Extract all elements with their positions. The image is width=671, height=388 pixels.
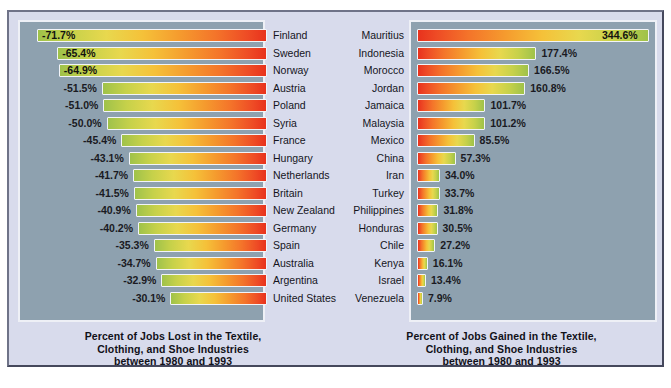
bar-row: -65.4%Sweden bbox=[9, 45, 337, 63]
bar bbox=[102, 82, 267, 95]
bar-row: 16.1%Kenya bbox=[337, 255, 666, 273]
bar-row: -45.4%France bbox=[9, 132, 337, 150]
bar-value-label: 177.4% bbox=[541, 45, 577, 63]
bar bbox=[417, 169, 440, 182]
figure-frame: -71.7%Finland-65.4%Sweden-64.9%Norway-51… bbox=[7, 10, 664, 367]
bar bbox=[417, 47, 536, 60]
country-label: Jamaica bbox=[337, 97, 404, 115]
bar-value-label: 34.0% bbox=[445, 167, 475, 185]
country-label: Syria bbox=[273, 115, 297, 133]
bar-value-label: -51.5% bbox=[40, 80, 97, 98]
bar-value-label: -35.3% bbox=[92, 237, 149, 255]
bar-row: -43.1%Hungary bbox=[9, 150, 337, 168]
bar-row: 27.2%Chile bbox=[337, 237, 666, 255]
bar bbox=[417, 204, 438, 217]
bar-row: 177.4%Indonesia bbox=[337, 45, 666, 63]
country-label: New Zealand bbox=[273, 202, 335, 220]
chart-panel-jobs-lost: -71.7%Finland-65.4%Sweden-64.9%Norway-51… bbox=[9, 12, 337, 365]
caption-line: Clothing, and Shoe Industries bbox=[337, 343, 666, 356]
country-label: Venezuela bbox=[337, 290, 404, 308]
country-label: Malaysia bbox=[337, 115, 404, 133]
bar-row: -71.7%Finland bbox=[9, 27, 337, 45]
bar-row: 85.5%Mexico bbox=[337, 132, 666, 150]
bar-row: -50.0%Syria bbox=[9, 115, 337, 133]
bar-value-label: 30.5% bbox=[443, 220, 473, 238]
bar bbox=[417, 239, 435, 252]
country-label: Poland bbox=[273, 97, 306, 115]
bar-row: 101.7%Jamaica bbox=[337, 97, 666, 115]
country-label: Chile bbox=[337, 237, 404, 255]
country-label: Austria bbox=[273, 80, 306, 98]
bar-rows-jobs-gained: 344.6%Mauritius177.4%Indonesia166.5%Moro… bbox=[337, 12, 666, 365]
bar bbox=[136, 204, 267, 217]
bar-value-label: -41.7% bbox=[71, 167, 128, 185]
bar-value-label: -43.1% bbox=[67, 150, 124, 168]
country-label: Iran bbox=[337, 167, 404, 185]
caption-jobs-lost: Percent of Jobs Lost in the Textile,Clot… bbox=[9, 330, 337, 368]
bar-row: -32.9%Argentina bbox=[9, 272, 337, 290]
bar-row: 160.8%Jordan bbox=[337, 80, 666, 98]
bar-value-label: -41.5% bbox=[72, 185, 129, 203]
bar-value-label: 16.1% bbox=[433, 255, 463, 273]
bar-value-label: 101.2% bbox=[490, 115, 526, 133]
bar-value-label: -51.0% bbox=[41, 97, 98, 115]
bar-value-label: -50.0% bbox=[45, 115, 102, 133]
bar bbox=[133, 169, 267, 182]
bar-value-label: 7.9% bbox=[428, 290, 452, 308]
bar bbox=[161, 274, 267, 287]
bar-row: 30.5%Honduras bbox=[337, 220, 666, 238]
bar-value-label: -64.9% bbox=[64, 62, 97, 80]
country-label: Australia bbox=[273, 255, 314, 273]
bar-row: -51.0%Poland bbox=[9, 97, 337, 115]
caption-line: between 1980 and 1993 bbox=[337, 355, 666, 368]
bar-value-label: 13.4% bbox=[431, 272, 461, 290]
bar-row: -30.1%United States bbox=[9, 290, 337, 308]
bar-value-label: -40.2% bbox=[76, 220, 133, 238]
bar-row: 344.6%Mauritius bbox=[337, 27, 666, 45]
bar bbox=[138, 222, 267, 235]
caption-jobs-gained: Percent of Jobs Gained in the Textile,Cl… bbox=[337, 330, 666, 368]
country-label: Britain bbox=[273, 185, 303, 203]
bar bbox=[156, 257, 267, 270]
bar bbox=[417, 187, 440, 200]
bar bbox=[417, 99, 485, 112]
bar bbox=[170, 292, 267, 305]
bar bbox=[417, 222, 438, 235]
bar-row: -41.5%Britain bbox=[9, 185, 337, 203]
country-label: France bbox=[273, 132, 306, 150]
bar bbox=[417, 274, 426, 287]
country-label: Spain bbox=[273, 237, 300, 255]
country-label: Honduras bbox=[337, 220, 404, 238]
bar-row: 33.7%Turkey bbox=[337, 185, 666, 203]
bar-value-label: 344.6% bbox=[602, 27, 638, 45]
bar-row: -51.5%Austria bbox=[9, 80, 337, 98]
country-label: Netherlands bbox=[273, 167, 330, 185]
chart-panel-jobs-gained: 344.6%Mauritius177.4%Indonesia166.5%Moro… bbox=[337, 12, 666, 365]
bar-row: 7.9%Venezuela bbox=[337, 290, 666, 308]
country-label: Hungary bbox=[273, 150, 313, 168]
country-label: Mauritius bbox=[337, 27, 404, 45]
country-label: Argentina bbox=[273, 272, 318, 290]
bar-row: 101.2%Malaysia bbox=[337, 115, 666, 133]
bar-row: 31.8%Philippines bbox=[337, 202, 666, 220]
bar-row: -34.7%Australia bbox=[9, 255, 337, 273]
country-label: Jordan bbox=[337, 80, 404, 98]
bar-value-label: 31.8% bbox=[443, 202, 473, 220]
bar-row: 166.5%Morocco bbox=[337, 62, 666, 80]
bar-value-label: 57.3% bbox=[461, 150, 491, 168]
bar-value-label: 166.5% bbox=[534, 62, 570, 80]
bar bbox=[134, 187, 267, 200]
bar-value-label: -45.4% bbox=[59, 132, 116, 150]
country-label: China bbox=[337, 150, 404, 168]
caption-line: Percent of Jobs Gained in the Textile, bbox=[337, 330, 666, 343]
country-label: Sweden bbox=[273, 45, 311, 63]
country-label: Turkey bbox=[337, 185, 404, 203]
country-label: Indonesia bbox=[337, 45, 404, 63]
bar bbox=[417, 292, 423, 305]
country-label: Germany bbox=[273, 220, 316, 238]
country-label: Philippines bbox=[337, 202, 404, 220]
bar-value-label: 27.2% bbox=[440, 237, 470, 255]
bar bbox=[121, 134, 267, 147]
bar-value-label: 160.8% bbox=[530, 80, 566, 98]
bar bbox=[107, 117, 267, 130]
